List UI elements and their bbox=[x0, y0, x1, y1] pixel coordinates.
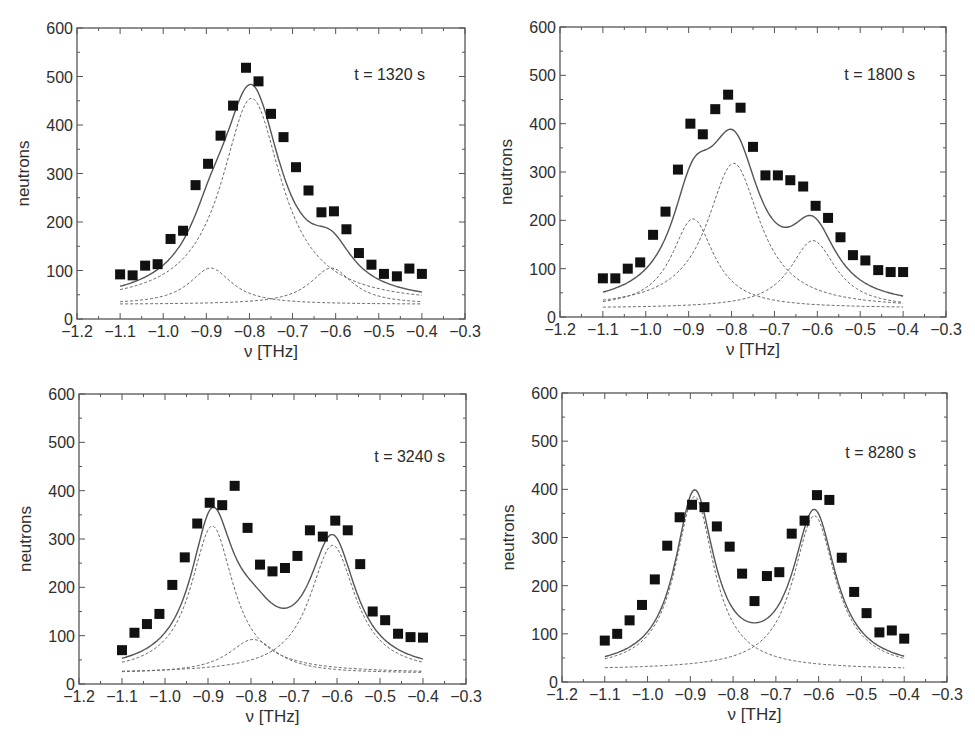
x-tick-label: −0.4 bbox=[888, 686, 920, 703]
data-point bbox=[675, 512, 685, 522]
y-tick-label: 500 bbox=[531, 433, 558, 450]
component-curve bbox=[605, 516, 904, 668]
data-point bbox=[762, 571, 772, 581]
x-tick-label: −0.8 bbox=[717, 686, 749, 703]
y-tick-label: 100 bbox=[531, 626, 558, 643]
chart-svg: −1.2−1.1−1.0−0.9−0.8−0.7−0.6−0.5−0.4−0.3… bbox=[0, 0, 975, 751]
y-tick-label: 300 bbox=[531, 530, 558, 547]
data-point bbox=[750, 596, 760, 606]
y-tick-label: 200 bbox=[531, 578, 558, 595]
y-tick-label: 400 bbox=[531, 481, 558, 498]
x-tick-label: −0.3 bbox=[931, 686, 963, 703]
data-point bbox=[824, 495, 834, 505]
y-tick-label: 600 bbox=[531, 385, 558, 402]
data-point bbox=[737, 569, 747, 579]
x-tick-label: −0.5 bbox=[846, 686, 878, 703]
data-point bbox=[800, 516, 810, 526]
data-point bbox=[725, 542, 735, 552]
data-point bbox=[899, 634, 909, 644]
data-point bbox=[812, 490, 822, 500]
x-tick-label: −0.7 bbox=[760, 686, 792, 703]
data-point bbox=[687, 500, 697, 510]
data-point bbox=[699, 502, 709, 512]
data-point bbox=[774, 567, 784, 577]
x-axis-title: ν [THz] bbox=[728, 705, 782, 724]
data-point bbox=[787, 529, 797, 539]
y-tick-label: 0 bbox=[549, 674, 558, 691]
x-tick-label: −0.6 bbox=[803, 686, 835, 703]
x-tick-label: −1.1 bbox=[589, 686, 621, 703]
time-annotation: t = 8280 s bbox=[845, 444, 916, 461]
component-curve bbox=[605, 497, 904, 668]
data-point bbox=[849, 587, 859, 597]
y-axis-title: neutrons bbox=[499, 504, 518, 570]
data-point bbox=[887, 625, 897, 635]
data-point bbox=[650, 574, 660, 584]
panel-bottom-right: −1.2−1.1−1.0−0.9−0.8−0.7−0.6−0.5−0.4−0.3… bbox=[0, 0, 975, 751]
data-point bbox=[612, 629, 622, 639]
data-point bbox=[637, 600, 647, 610]
data-point bbox=[837, 553, 847, 563]
data-point bbox=[712, 521, 722, 531]
data-point bbox=[625, 615, 635, 625]
x-tick-label: −1.0 bbox=[632, 686, 664, 703]
data-point bbox=[600, 636, 610, 646]
data-point bbox=[862, 608, 872, 618]
data-point bbox=[662, 541, 672, 551]
data-point bbox=[874, 627, 884, 637]
x-tick-label: −0.9 bbox=[675, 686, 707, 703]
